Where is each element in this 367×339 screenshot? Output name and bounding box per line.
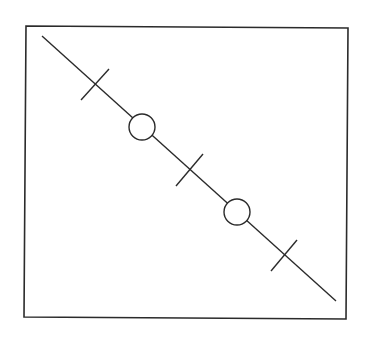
tick-mark-1 <box>81 69 109 100</box>
circle-marker-2 <box>224 199 250 225</box>
main-diagonal-line <box>42 36 336 301</box>
diagram-canvas <box>0 0 367 339</box>
circle-marker-1 <box>129 114 155 140</box>
tick-mark-3 <box>271 240 297 271</box>
tick-marks <box>81 69 297 271</box>
tick-mark-2 <box>176 154 203 186</box>
frame-rectangle <box>24 26 348 319</box>
